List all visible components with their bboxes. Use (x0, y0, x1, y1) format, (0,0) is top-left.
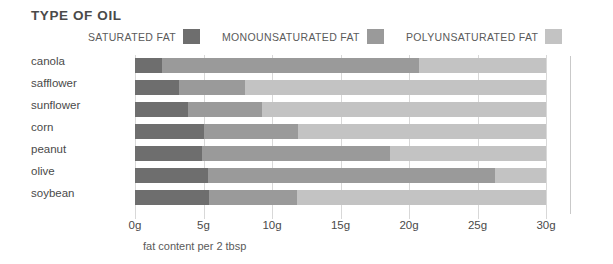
legend-entry: SATURATED FAT (88, 29, 222, 44)
x-axis-tick-label: 0g (129, 219, 142, 231)
legend-entry: MONOUNSATURATED FAT (222, 29, 406, 44)
legend-swatch-icon (183, 29, 200, 44)
bar-segment (419, 58, 546, 73)
x-axis-tick-label: 5g (197, 219, 210, 231)
y-axis-label: peanut (31, 143, 66, 155)
x-axis-tick-label: 30g (536, 219, 555, 231)
bar-segment (495, 168, 546, 183)
y-axis-label: canola (31, 55, 65, 67)
bar-segment (209, 190, 297, 205)
bar-row (135, 146, 546, 161)
bar-row (135, 124, 546, 139)
legend-label: MONOUNSATURATED FAT (222, 31, 360, 43)
bar-segment (390, 146, 546, 161)
legend-swatch-icon (545, 29, 562, 44)
bar-segment (262, 102, 546, 117)
x-axis-tick-label: 25g (468, 219, 487, 231)
y-axis-label: sunflower (31, 99, 80, 111)
oil-fat-chart: TYPE OF OIL SATURATED FATMONOUNSATURATED… (0, 0, 613, 264)
bar-row (135, 80, 546, 95)
y-axis-label: corn (31, 121, 53, 133)
bar-row (135, 102, 546, 117)
y-axis-label: soybean (31, 187, 74, 199)
bar-segment (135, 58, 162, 73)
legend-label: SATURATED FAT (88, 31, 176, 43)
axis-caption: fat content per 2 tbsp (143, 240, 246, 252)
bar-segment (179, 80, 245, 95)
bar-segment (135, 102, 188, 117)
legend: SATURATED FATMONOUNSATURATED FATPOLYUNSA… (88, 29, 562, 44)
legend-entry: POLYUNSATURATED FAT (406, 29, 562, 44)
bar-segment (202, 146, 390, 161)
grid-line (546, 55, 547, 219)
bar-segment (135, 190, 209, 205)
axis-right-rule (570, 56, 571, 214)
bar-segment (162, 58, 418, 73)
x-axis-tick-label: 20g (399, 219, 418, 231)
x-axis-tick-label: 15g (331, 219, 350, 231)
bar-segment (135, 146, 202, 161)
x-axis-tick-label: 10g (262, 219, 281, 231)
bar-segment (245, 80, 546, 95)
bar-segment (135, 124, 204, 139)
bar-segment (208, 168, 496, 183)
bar-segment (204, 124, 299, 139)
bar-segment (188, 102, 262, 117)
plot-area (135, 55, 546, 212)
bar-row (135, 190, 546, 205)
legend-label: POLYUNSATURATED FAT (406, 31, 538, 43)
y-axis-label: safflower (31, 77, 77, 89)
bar-segment (135, 80, 179, 95)
bar-segment (297, 190, 546, 205)
bar-segment (298, 124, 546, 139)
y-axis-label: olive (31, 165, 55, 177)
legend-swatch-icon (367, 29, 384, 44)
bar-row (135, 168, 546, 183)
bar-segment (135, 168, 208, 183)
page-title: TYPE OF OIL (31, 8, 122, 23)
bar-row (135, 58, 546, 73)
